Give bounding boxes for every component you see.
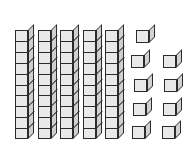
unit-cube <box>164 73 183 92</box>
ten-rod <box>38 24 57 139</box>
rod-cube-divider <box>60 41 73 42</box>
rod-cube-divider <box>105 52 118 53</box>
rod-cube-divider <box>15 106 28 107</box>
rod-cube-divider <box>38 106 51 107</box>
cube-front-face <box>134 79 147 92</box>
rod-cube-divider <box>83 52 96 53</box>
rod-cube-divider <box>38 117 51 118</box>
rod-cube-divider <box>105 95 118 96</box>
rod-cube-divider <box>105 117 118 118</box>
cube-side-face <box>177 73 183 92</box>
rod-cube-divider <box>105 85 118 86</box>
rod-cube-divider <box>83 95 96 96</box>
rod-cube-divider <box>105 63 118 64</box>
cube-front-face <box>132 126 145 139</box>
rod-cube-divider <box>83 117 96 118</box>
rod-cube-divider <box>105 74 118 75</box>
rod-cube-divider <box>15 63 28 64</box>
cube-front-face <box>163 55 176 68</box>
rod-cube-divider <box>83 128 96 129</box>
ten-rod <box>83 24 102 139</box>
cube-front-face <box>162 126 175 139</box>
rod-cube-divider <box>38 52 51 53</box>
cube-side-face <box>176 49 182 68</box>
rod-cube-divider <box>38 41 51 42</box>
unit-cube <box>136 24 155 43</box>
rod-cube-divider <box>15 117 28 118</box>
rod-cube-divider <box>60 106 73 107</box>
rod-cube-divider <box>15 95 28 96</box>
cube-front-face <box>131 55 144 68</box>
unit-cube <box>133 97 152 116</box>
cube-side-face <box>175 120 181 139</box>
ten-rod <box>15 24 34 139</box>
unit-cube <box>162 120 181 139</box>
rod-cube-divider <box>60 52 73 53</box>
rod-cube-divider <box>105 41 118 42</box>
rod-cube-divider <box>60 74 73 75</box>
unit-cube <box>163 49 182 68</box>
cube-side-face <box>147 73 153 92</box>
unit-cube <box>163 97 182 116</box>
rod-cube-divider <box>38 74 51 75</box>
ten-rod <box>105 24 124 139</box>
base-ten-blocks-figure: Base-ten blocks showing 59 <box>0 0 187 168</box>
rod-cube-divider <box>60 117 73 118</box>
rod-cube-divider <box>60 95 73 96</box>
rod-cube-divider <box>83 106 96 107</box>
cube-side-face <box>146 97 152 116</box>
cube-front-face <box>136 30 149 43</box>
unit-cube <box>131 49 150 68</box>
unit-cube <box>134 73 153 92</box>
rod-cube-divider <box>105 106 118 107</box>
cube-side-face <box>149 24 155 43</box>
rod-cube-divider <box>83 85 96 86</box>
rod-cube-divider <box>15 52 28 53</box>
unit-cube <box>132 120 151 139</box>
rod-cube-divider <box>38 63 51 64</box>
cube-side-face <box>145 120 151 139</box>
figure-title: Base-ten blocks showing 59 <box>0 0 1 1</box>
rod-cube-divider <box>15 74 28 75</box>
rod-cube-divider <box>15 41 28 42</box>
rod-cube-divider <box>60 128 73 129</box>
rod-cube-divider <box>60 85 73 86</box>
rod-cube-divider <box>38 128 51 129</box>
cube-front-face <box>164 79 177 92</box>
cube-side-face <box>144 49 150 68</box>
cube-side-face <box>176 97 182 116</box>
rod-cube-divider <box>83 74 96 75</box>
rod-cube-divider <box>15 85 28 86</box>
ten-rod <box>60 24 79 139</box>
rod-cube-divider <box>60 63 73 64</box>
rod-cube-divider <box>105 128 118 129</box>
cube-front-face <box>163 103 176 116</box>
rod-cube-divider <box>38 85 51 86</box>
rod-cube-divider <box>38 95 51 96</box>
cube-front-face <box>133 103 146 116</box>
rod-cube-divider <box>83 63 96 64</box>
rod-cube-divider <box>15 128 28 129</box>
rod-cube-divider <box>83 41 96 42</box>
